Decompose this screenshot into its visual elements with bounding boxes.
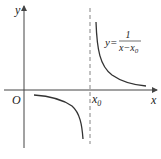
origin-label: O	[12, 93, 21, 107]
equation-label: y= 1 x−x0	[104, 29, 141, 55]
y-axis-label: y	[14, 3, 21, 17]
svg-text:1: 1	[126, 29, 131, 40]
x-axis-label: x	[150, 93, 157, 107]
svg-text:x−x0: x−x0	[118, 42, 139, 55]
svg-text:y=: y=	[104, 36, 117, 48]
curve-branch-left	[34, 95, 83, 139]
curve-branch-right	[96, 22, 146, 86]
asymptote-label: x0	[91, 92, 101, 108]
hyperbola-diagram: y x O x0 y= 1 x−x0	[0, 0, 161, 159]
